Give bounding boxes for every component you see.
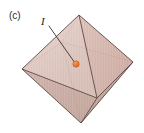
interstitial-site-marker	[73, 61, 79, 67]
octahedron-figure: (c) I	[0, 0, 144, 133]
panel-label: (c)	[9, 10, 21, 21]
figure-panel-c: (c) I	[0, 0, 144, 133]
